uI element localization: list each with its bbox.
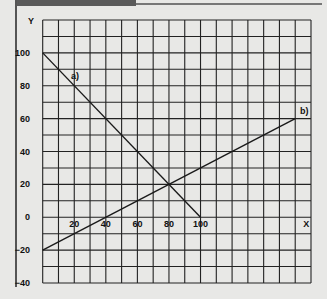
series-annotation: b) [300,106,309,116]
x-tick-label: 100 [193,219,208,229]
y-tick-label: 0 [25,212,30,222]
x-tick-label: 20 [69,219,79,229]
y-tick-label: −40 [15,278,30,288]
x-axis-label: X [303,219,309,229]
line-chart: YX100806040200−20−4020406080100a)b) [0,0,327,299]
y-tick-label: −20 [15,245,30,255]
y-tick-label: 60 [20,114,30,124]
x-tick-label: 60 [132,219,142,229]
y-tick-label: 100 [15,48,30,58]
y-tick-label: 80 [20,81,30,91]
chart-grid [43,20,311,283]
y-tick-label: 20 [20,179,30,189]
y-axis-label: Y [28,16,34,26]
x-tick-label: 40 [101,219,111,229]
x-tick-label: 80 [164,219,174,229]
y-tick-label: 40 [20,147,30,157]
series-annotation: a) [71,71,79,81]
